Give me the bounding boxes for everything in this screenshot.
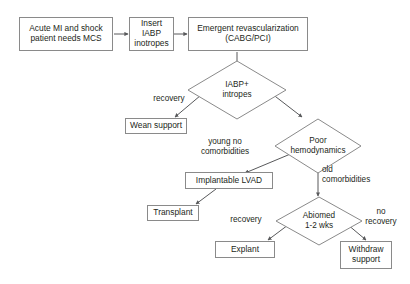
edge-label-recovery-explant: recovery <box>222 215 270 225</box>
node-implantable-lvad: Implantable LVAD <box>185 172 273 189</box>
edge-label-no-recovery: no recovery <box>357 207 405 227</box>
edge-label-young-no-comorbidities: young no comorbidities <box>187 137 263 157</box>
node-acute-mi: Acute MI and shock patient needs MCS <box>19 17 113 51</box>
flowchart-canvas: Acute MI and shock patient needs MCS Ins… <box>0 0 410 284</box>
node-revascularization: Emergent revascularization (CABG/PCI) <box>188 17 308 51</box>
node-abiomed-decision: Abiomed 1-2 wks <box>275 196 363 246</box>
node-label: IABP+ intropes <box>187 60 287 120</box>
node-iabp-inotropes-decision: IABP+ intropes <box>187 60 287 120</box>
node-explant: Explant <box>215 241 275 258</box>
edge-label-old-comorbidities: old comorbidities <box>322 165 388 185</box>
node-label: Abiomed 1-2 wks <box>275 196 363 246</box>
node-wean-support: Wean support <box>125 118 187 134</box>
edge-lvad-transplant <box>196 189 216 204</box>
node-transplant: Transplant <box>147 205 199 221</box>
node-insert-iabp: Insert IABP inotropes <box>129 17 174 51</box>
edge-label-recovery-wean: recovery <box>146 94 192 104</box>
